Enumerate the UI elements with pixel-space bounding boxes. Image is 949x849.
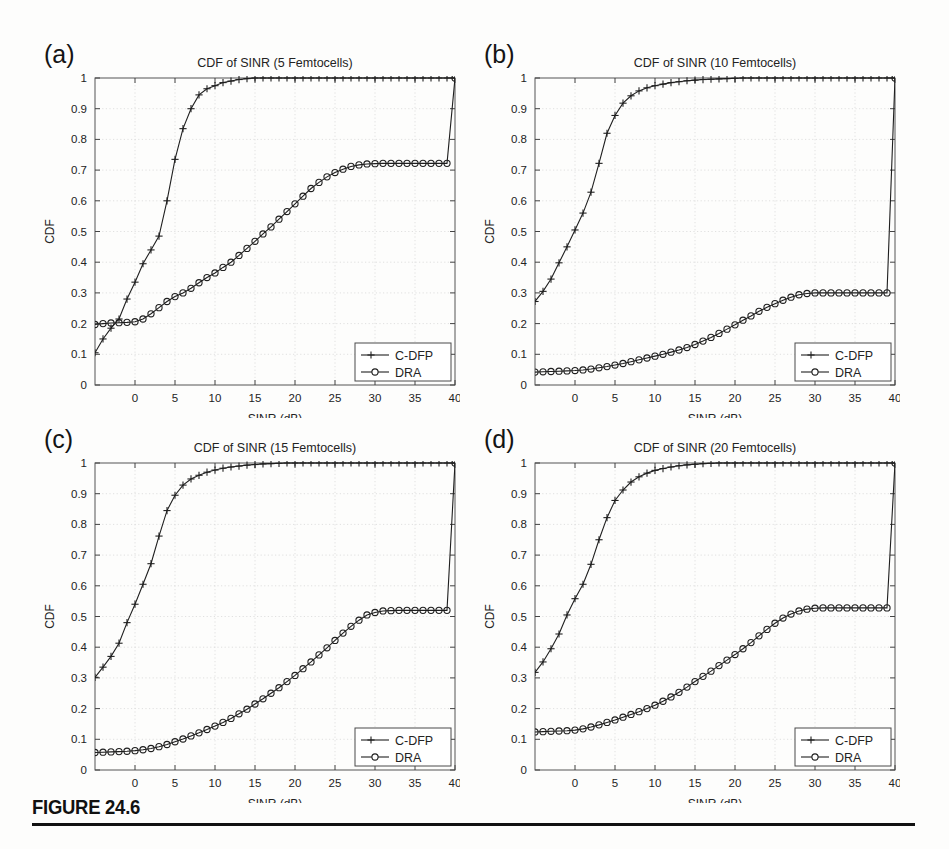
plot-area: CDF of SINR (15 Femtocells)0510152025303…	[40, 433, 460, 803]
x-tick-label: 15	[689, 392, 702, 404]
legend-label: C-DFP	[835, 349, 873, 363]
x-tick-label: 25	[329, 392, 342, 404]
series-dra	[92, 75, 458, 328]
series-dra	[532, 75, 898, 375]
y-tick-label: 0.4	[71, 256, 88, 268]
y-axis-label: CDF	[483, 604, 497, 629]
plot-title: CDF of SINR (15 Femtocells)	[194, 441, 357, 455]
series-line	[535, 78, 895, 372]
x-tick-label: 25	[769, 777, 782, 789]
y-tick-label: 0.2	[71, 703, 87, 715]
x-tick-label: 10	[209, 392, 222, 404]
x-tick-label: 35	[409, 777, 422, 789]
series-dra	[532, 460, 898, 735]
y-tick-label: 0.6	[511, 580, 527, 592]
x-tick-label: 40	[449, 392, 460, 404]
legend[interactable]: C-DFPDRA	[795, 728, 891, 766]
figure-caption-label: FIGURE 24.6	[32, 795, 811, 819]
caption-divider	[32, 823, 915, 826]
y-tick-label: 1	[521, 457, 527, 469]
y-tick-label: 1	[81, 72, 87, 84]
legend[interactable]: C-DFPDRA	[795, 343, 891, 381]
y-tick-label: 0.9	[511, 103, 527, 115]
chart-a: CDF of SINR (5 Femtocells)05101520253035…	[40, 48, 460, 418]
y-tick-label: 1	[521, 72, 527, 84]
y-tick-label: 0.5	[511, 226, 527, 238]
y-tick-label: 0	[521, 379, 527, 391]
series-line	[535, 463, 895, 732]
y-tick-label: 0.1	[511, 733, 527, 745]
y-tick-label: 0.6	[71, 195, 87, 207]
x-tick-label: 5	[172, 392, 178, 404]
x-tick-label: 20	[289, 392, 302, 404]
series-c-dfp	[531, 459, 898, 676]
y-tick-label: 1	[81, 457, 87, 469]
y-tick-label: 0.7	[511, 549, 527, 561]
grid-lines	[95, 78, 455, 385]
x-tick-label: 15	[249, 392, 262, 404]
x-tick-label: 5	[612, 392, 618, 404]
y-tick-label: 0.8	[511, 133, 527, 145]
y-axis-label: CDF	[43, 219, 57, 244]
x-tick-label: 5	[612, 777, 618, 789]
x-tick-label: 0	[132, 392, 138, 404]
legend[interactable]: C-DFPDRA	[355, 343, 451, 381]
x-tick-label: 30	[369, 777, 382, 789]
series-line	[95, 463, 455, 677]
series-line	[535, 463, 895, 672]
y-tick-label: 0.8	[511, 518, 527, 530]
legend-label: DRA	[835, 366, 862, 380]
y-tick-label: 0	[521, 764, 527, 776]
x-tick-label: 20	[729, 392, 742, 404]
y-tick-label: 0.3	[511, 672, 527, 684]
y-tick-label: 0	[81, 379, 87, 391]
x-tick-label: 15	[689, 777, 702, 789]
y-tick-label: 0.1	[71, 733, 87, 745]
legend-label: DRA	[835, 751, 862, 765]
figure-caption: FIGURE 24.6	[32, 795, 917, 826]
y-tick-label: 0.5	[511, 611, 527, 623]
chart-d: CDF of SINR (20 Femtocells)0510152025303…	[480, 433, 900, 803]
series-line	[95, 78, 455, 325]
y-tick-label: 0.9	[71, 103, 87, 115]
plot-area: CDF of SINR (20 Femtocells)0510152025303…	[480, 433, 900, 803]
plot-title: CDF of SINR (20 Femtocells)	[634, 441, 797, 455]
y-tick-label: 0.3	[511, 287, 527, 299]
x-tick-label: 40	[889, 777, 900, 789]
x-tick-label: 40	[449, 777, 460, 789]
legend[interactable]: C-DFPDRA	[355, 728, 451, 766]
legend-label: C-DFP	[395, 349, 433, 363]
y-tick-label: 0.2	[511, 318, 527, 330]
x-tick-label: 40	[889, 392, 900, 404]
plot-area: CDF of SINR (10 Femtocells)0510152025303…	[480, 48, 900, 418]
series-dra	[92, 460, 458, 756]
x-tick-label: 20	[729, 777, 742, 789]
y-tick-label: 0.7	[511, 164, 527, 176]
legend-label: C-DFP	[395, 734, 433, 748]
x-axis-label: SINR (dB)	[688, 412, 743, 418]
grid-lines	[535, 78, 895, 385]
y-tick-label: 0.2	[511, 703, 527, 715]
y-tick-label: 0.7	[71, 164, 87, 176]
y-tick-label: 0.4	[511, 641, 528, 653]
x-tick-label: 35	[849, 392, 862, 404]
x-tick-label: 0	[132, 777, 138, 789]
y-tick-label: 0.2	[71, 318, 87, 330]
x-tick-label: 10	[209, 777, 222, 789]
x-tick-label: 25	[329, 777, 342, 789]
x-tick-label: 10	[649, 392, 662, 404]
legend-label: DRA	[395, 366, 422, 380]
plot-title: CDF of SINR (10 Femtocells)	[634, 56, 797, 70]
plot-area: CDF of SINR (5 Femtocells)05101520253035…	[40, 48, 460, 418]
y-tick-label: 0.6	[71, 580, 87, 592]
y-tick-label: 0.3	[71, 672, 87, 684]
series-c-dfp	[91, 74, 458, 356]
y-tick-label: 0.5	[71, 226, 87, 238]
grid-lines	[535, 463, 895, 770]
y-tick-label: 0.7	[71, 549, 87, 561]
grid-lines	[95, 463, 455, 770]
plot-title: CDF of SINR (5 Femtocells)	[197, 56, 353, 70]
x-tick-label: 15	[249, 777, 262, 789]
x-tick-label: 30	[809, 392, 822, 404]
y-axis-label: CDF	[43, 604, 57, 629]
